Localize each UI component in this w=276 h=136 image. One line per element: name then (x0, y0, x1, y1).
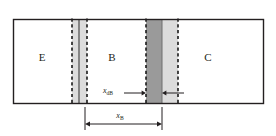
region-label-collector[interactable]: C (204, 51, 211, 63)
device-body[interactable] (13, 19, 264, 104)
x-B-arrow-head-left[interactable] (85, 121, 90, 126)
region-label-emitter[interactable]: E (39, 51, 46, 63)
x-B-arrow-head-right[interactable] (157, 121, 162, 126)
x-B-label[interactable]: xB (115, 111, 124, 121)
figure-canvas: EBCxdBxB (0, 0, 276, 136)
region-label-base[interactable]: B (108, 51, 115, 63)
base-collector-junction-depletion-light[interactable] (162, 19, 178, 104)
base-collector-junction-depletion-dark[interactable] (146, 19, 162, 104)
transistor-cross-section-diagram: EBCxdBxB (0, 0, 276, 136)
